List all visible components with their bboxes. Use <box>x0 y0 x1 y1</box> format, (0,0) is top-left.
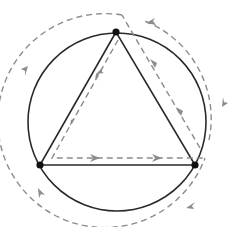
triangle-circle-diagram <box>0 0 235 227</box>
arrow-icon <box>152 154 162 162</box>
dashed-outer-loop-upper-right <box>142 20 211 140</box>
arrow-icon <box>96 68 104 74</box>
arrow-icon <box>176 107 183 116</box>
arrow-icon <box>70 118 75 126</box>
circumcircle <box>28 33 206 211</box>
arrow-icon <box>222 97 228 107</box>
dashed-inner-path <box>52 15 205 158</box>
arrow-icon <box>21 66 28 76</box>
dashed-outer-loop <box>0 14 205 227</box>
vertex-bottom-left <box>36 161 43 168</box>
arrow-icon <box>38 188 45 198</box>
vertex-bottom-right <box>191 161 198 168</box>
arrow-icon <box>150 59 157 68</box>
vertex-top <box>112 28 119 35</box>
arrow-icon <box>186 202 195 209</box>
